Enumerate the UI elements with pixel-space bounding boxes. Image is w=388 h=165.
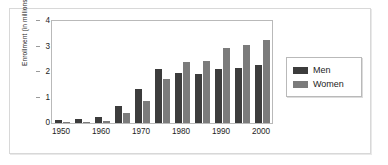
bar-women[interactable]	[243, 45, 250, 123]
y-tick-mark	[36, 97, 40, 98]
y-tick-mark	[36, 20, 40, 21]
bar-women[interactable]	[143, 101, 150, 123]
bar-women[interactable]	[103, 121, 110, 123]
legend-swatch-women	[293, 81, 308, 88]
y-tick-label: 0	[38, 118, 50, 127]
bar-men[interactable]	[95, 117, 102, 123]
y-axis: 01234	[36, 20, 50, 124]
plot-area	[51, 20, 273, 124]
bar-group	[55, 21, 70, 123]
bar-group	[75, 21, 90, 123]
bar-men[interactable]	[175, 73, 182, 123]
bar-women[interactable]	[123, 113, 130, 123]
legend-label-women: Women	[313, 80, 344, 89]
bar-group	[255, 21, 270, 123]
bar-men[interactable]	[55, 120, 62, 123]
legend-swatch-men	[293, 67, 308, 74]
bar-men[interactable]	[255, 65, 262, 123]
bar-women[interactable]	[63, 122, 70, 123]
chart-legend: Men Women	[286, 57, 362, 97]
bar-women[interactable]	[183, 62, 190, 123]
bar-men[interactable]	[235, 68, 242, 123]
bar-men[interactable]	[115, 106, 122, 123]
y-axis-title: Enrollment (in millions)	[21, 0, 28, 84]
x-axis: 195019601970198019902000	[51, 127, 273, 141]
y-tick-mark	[36, 46, 40, 47]
bar-men[interactable]	[75, 119, 82, 123]
legend-item-men[interactable]: Men	[293, 63, 356, 77]
x-tick-label: 1970	[124, 127, 158, 136]
x-tick-label: 1960	[84, 127, 118, 136]
bar-group	[155, 21, 170, 123]
x-tick-label: 2000	[244, 127, 278, 136]
y-tick-mark	[36, 71, 40, 72]
bar-group	[135, 21, 150, 123]
bar-men[interactable]	[135, 89, 142, 123]
x-tick-label: 1950	[44, 127, 78, 136]
bar-group	[95, 21, 110, 123]
bar-women[interactable]	[223, 48, 230, 123]
bar-men[interactable]	[195, 74, 202, 123]
bar-group	[235, 21, 250, 123]
bar-men[interactable]	[155, 69, 162, 123]
bar-women[interactable]	[83, 122, 90, 123]
legend-item-women[interactable]: Women	[293, 77, 356, 91]
legend-label-men: Men	[313, 66, 331, 75]
bar-women[interactable]	[263, 40, 270, 123]
bar-women[interactable]	[203, 61, 210, 123]
bar-women[interactable]	[163, 79, 170, 123]
x-tick-label: 1990	[204, 127, 238, 136]
bar-chart-figure: Enrollment (in millions) 01234 195019601…	[0, 0, 388, 165]
bar-group	[175, 21, 190, 123]
bar-group	[115, 21, 130, 123]
bar-group	[215, 21, 230, 123]
x-tick-label: 1980	[164, 127, 198, 136]
bar-men[interactable]	[215, 69, 222, 123]
bar-group	[195, 21, 210, 123]
